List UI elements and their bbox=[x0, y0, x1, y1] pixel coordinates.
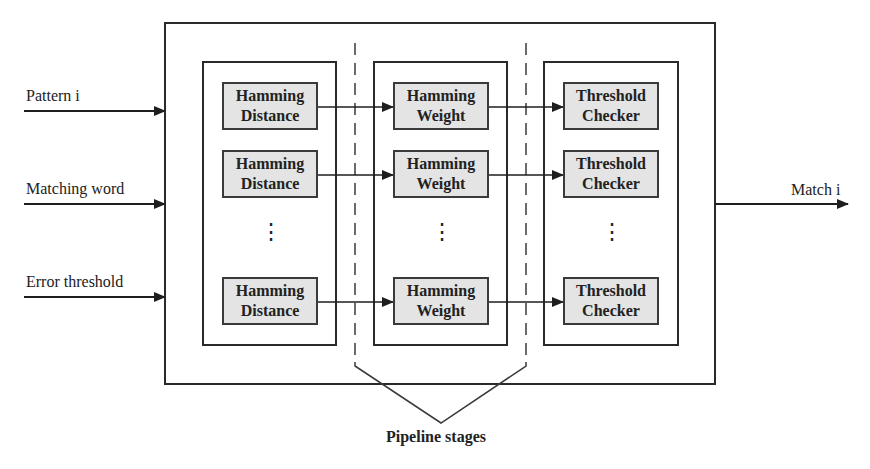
input-label-matching-word: Matching word bbox=[26, 180, 124, 198]
block-subtitle: Distance bbox=[241, 174, 300, 194]
block-subtitle: Checker bbox=[582, 174, 640, 194]
block-title: Hamming bbox=[407, 281, 475, 301]
ellipsis-distance: ⋮ bbox=[260, 228, 280, 236]
hamming-distance-block: Hamming Distance bbox=[222, 277, 318, 325]
hamming-weight-block: Hamming Weight bbox=[393, 150, 489, 198]
block-subtitle: Weight bbox=[417, 301, 466, 321]
threshold-checker-block: Threshold Checker bbox=[563, 150, 659, 198]
block-subtitle: Checker bbox=[582, 106, 640, 126]
hamming-distance-block: Hamming Distance bbox=[222, 82, 318, 130]
block-subtitle: Weight bbox=[417, 174, 466, 194]
ellipsis-weight: ⋮ bbox=[431, 228, 451, 236]
input-label-error-threshold: Error threshold bbox=[26, 273, 123, 291]
block-subtitle: Distance bbox=[241, 301, 300, 321]
pipeline-diagram: Pattern i Matching word Error threshold … bbox=[0, 0, 870, 469]
block-subtitle: Distance bbox=[241, 106, 300, 126]
hamming-weight-block: Hamming Weight bbox=[393, 277, 489, 325]
pipeline-brace bbox=[355, 362, 526, 423]
hamming-weight-block: Hamming Weight bbox=[393, 82, 489, 130]
block-title: Hamming bbox=[236, 86, 304, 106]
ellipsis-checker: ⋮ bbox=[601, 228, 621, 236]
block-title: Hamming bbox=[407, 86, 475, 106]
block-subtitle: Checker bbox=[582, 301, 640, 321]
block-title: Hamming bbox=[236, 281, 304, 301]
hamming-distance-block: Hamming Distance bbox=[222, 150, 318, 198]
output-label-match: Match i bbox=[791, 181, 840, 199]
threshold-checker-block: Threshold Checker bbox=[563, 82, 659, 130]
threshold-checker-block: Threshold Checker bbox=[563, 277, 659, 325]
block-title: Hamming bbox=[236, 154, 304, 174]
block-title: Threshold bbox=[576, 281, 646, 301]
block-subtitle: Weight bbox=[417, 106, 466, 126]
outer-module-box bbox=[165, 23, 715, 384]
input-label-pattern: Pattern i bbox=[26, 87, 80, 105]
pipeline-stages-caption: Pipeline stages bbox=[386, 428, 486, 446]
block-title: Threshold bbox=[576, 154, 646, 174]
block-title: Hamming bbox=[407, 154, 475, 174]
block-title: Threshold bbox=[576, 86, 646, 106]
